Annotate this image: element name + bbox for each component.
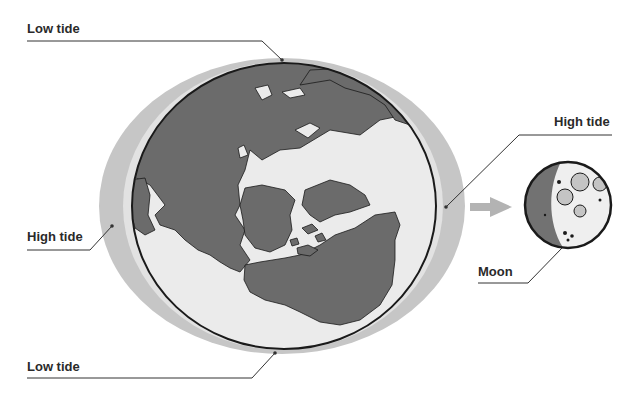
moon-crater [574, 205, 586, 217]
label-low-tide-top: Low tide [27, 21, 80, 36]
moon [520, 160, 611, 252]
arrow-icon [470, 197, 512, 217]
label-low-tide-bottom: Low tide [27, 359, 80, 374]
diagram-canvas [0, 0, 637, 401]
tides-diagram: Low tide High tide High tide Moon Low ti… [0, 0, 637, 401]
moon-crater [557, 189, 573, 205]
leader-line-low-tide-top [27, 41, 282, 60]
moon-crater [571, 173, 589, 191]
label-high-tide-left: High tide [27, 229, 83, 244]
label-moon: Moon [478, 264, 513, 279]
label-high-tide-right: High tide [554, 114, 610, 129]
